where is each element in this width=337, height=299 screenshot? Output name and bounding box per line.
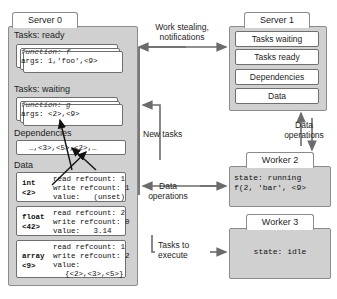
label-tasks-to-execute-line1: Tasks to [158,240,212,250]
label-tasks-to-execute-line2: execute [158,250,212,260]
label-work-stealing-line2: notifications [140,32,224,42]
label-data-operations-left-line1: Data [140,181,196,191]
label-data-operations-right-line1: Data [276,120,332,130]
label-work-stealing-line1: Work stealing, [140,22,224,32]
label-tasks-to-execute: Tasks to execute [158,240,212,260]
label-work-stealing: Work stealing, notifications [140,22,224,42]
label-data-operations-left-line2: operations [140,191,196,201]
label-new-tasks: New tasks [143,129,203,139]
label-data-operations-right: Data operations [276,120,332,140]
label-data-operations-right-line2: operations [276,130,332,140]
diagram-canvas: Server 0 Tasks: ready function: f args: … [0,0,337,299]
label-data-operations-left: Data operations [140,181,196,201]
arrow-dep-to-int [72,148,96,170]
arrow-new-tasks [143,105,160,120]
arrow-tasks-to-execute-stub [152,235,155,252]
arrow-dep-to-waiting-task [60,120,72,170]
